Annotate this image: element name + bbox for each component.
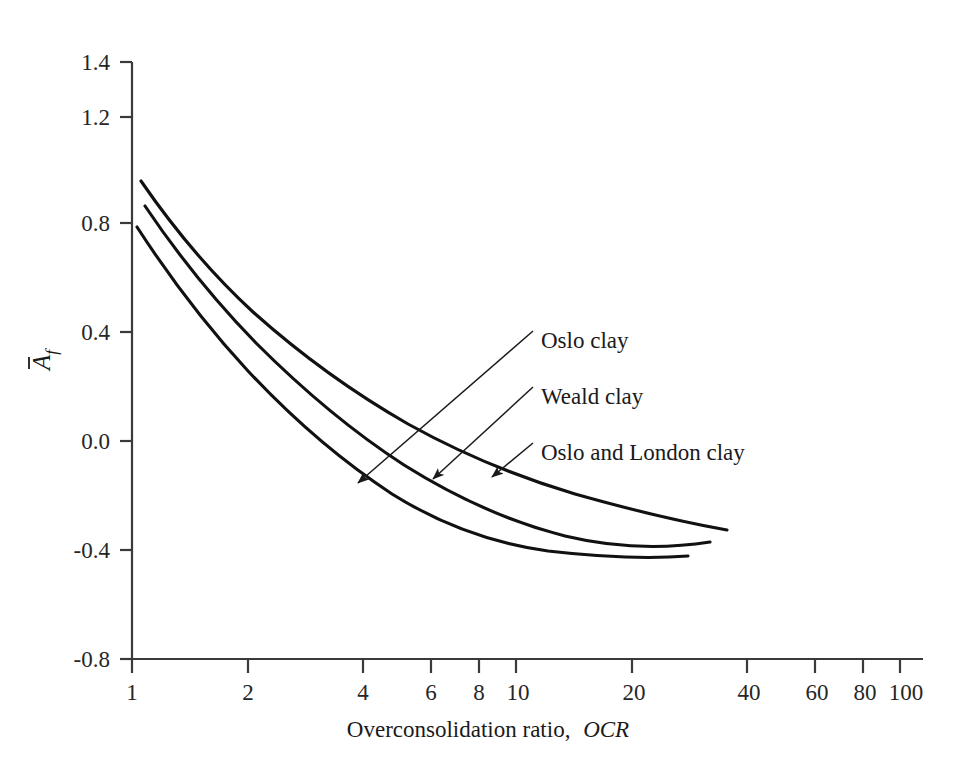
y-tick-label-neg0.8: -0.8 [74,647,110,672]
x-axis-title-italic: OCR [583,717,629,742]
af-vs-ocr-line-chart: 1.4 1.2 0.8 0.4 0.0 -0.4 -0.8 1 2 4 [0,0,970,760]
x-tick-label-80: 80 [854,680,877,705]
y-tick-label-1.4: 1.4 [81,50,110,75]
x-tick-label-20: 20 [623,680,646,705]
svg-text:Overconsolidation ratio,: Overconsolidation ratio, OCR [347,717,629,742]
x-axis-title: Overconsolidation ratio, OCR [347,717,629,742]
annotation-label-weald-clay: Weald clay [541,384,644,409]
x-tick-label-4: 4 [357,680,369,705]
x-tick-label-8: 8 [473,680,485,705]
chart-container: 1.4 1.2 0.8 0.4 0.0 -0.4 -0.8 1 2 4 [0,0,970,760]
y-tick-label-0.0: 0.0 [81,429,110,454]
chart-background [0,0,970,760]
x-tick-label-6: 6 [425,680,437,705]
x-tick-label-40: 40 [738,680,761,705]
x-tick-label-1: 1 [126,680,138,705]
y-axis-title-symbol: A [28,354,55,372]
x-tick-label-60: 60 [806,680,829,705]
x-tick-label-10: 10 [507,680,530,705]
y-tick-label-1.2: 1.2 [81,105,110,130]
x-axis-title-plain: Overconsolidation ratio, [347,717,571,742]
y-tick-label-0.4: 0.4 [81,320,110,345]
annotation-label-oslo-and-london-clay: Oslo and London clay [541,440,745,465]
y-tick-label-0.8: 0.8 [81,211,110,236]
annotation-label-oslo-clay: Oslo clay [541,328,629,353]
y-tick-label-neg0.4: -0.4 [74,538,111,563]
x-tick-label-2: 2 [242,680,254,705]
x-tick-label-100: 100 [889,680,924,705]
